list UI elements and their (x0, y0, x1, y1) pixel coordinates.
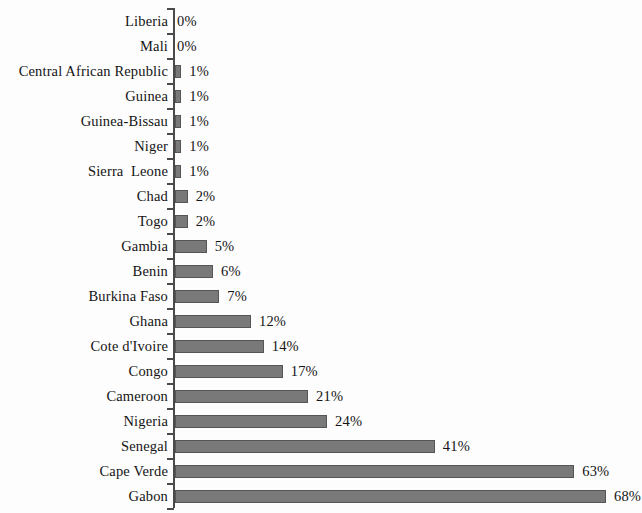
bar (175, 165, 181, 178)
bar-value-label: 0% (177, 14, 197, 29)
bar-container: 17% (175, 358, 318, 384)
category-label: Cote d'Ivoire (0, 339, 168, 354)
bar (175, 90, 181, 103)
bar (175, 440, 435, 453)
bar-value-label: 12% (259, 314, 286, 329)
bar (175, 340, 264, 353)
bar-value-label: 1% (189, 139, 209, 154)
category-label: Nigeria (0, 414, 168, 429)
bar-value-label: 0% (177, 39, 197, 54)
bar-value-label: 2% (196, 189, 216, 204)
bar (175, 415, 327, 428)
bar-container: 2% (175, 208, 215, 234)
bar-value-label: 14% (272, 339, 299, 354)
category-label: Congo (0, 364, 168, 379)
bar-container: 1% (175, 108, 209, 134)
category-label: Togo (0, 214, 168, 229)
bar (175, 390, 308, 403)
bar-container: 6% (175, 258, 241, 284)
category-label: Liberia (0, 14, 168, 29)
bar-row: Central African Republic1% (0, 58, 642, 84)
bar-value-label: 2% (196, 214, 216, 229)
bar-row: Ghana12% (0, 308, 642, 334)
bar-row: Sierra Leone1% (0, 158, 642, 184)
bar (175, 65, 181, 78)
category-label: Mali (0, 39, 168, 54)
bar-container: 63% (175, 458, 609, 484)
bar-value-label: 21% (316, 389, 343, 404)
bar-row: Gabon68% (0, 483, 642, 509)
bar (175, 490, 606, 503)
bar-row: Gambia5% (0, 233, 642, 259)
bar (175, 190, 188, 203)
bar-container: 7% (175, 283, 247, 309)
category-label: Guinea (0, 89, 168, 104)
bar (175, 465, 574, 478)
bar-container: 68% (175, 483, 641, 509)
category-label: Ghana (0, 314, 168, 329)
bar-container: 2% (175, 183, 215, 209)
bar-row: Benin6% (0, 258, 642, 284)
category-label: Cape Verde (0, 464, 168, 479)
bar-value-label: 41% (443, 439, 470, 454)
bar (175, 115, 181, 128)
category-label: Burkina Faso (0, 289, 168, 304)
plot-area: Liberia0%Mali0%Central African Republic1… (0, 0, 642, 513)
bar-value-label: 7% (227, 289, 247, 304)
category-label: Sierra Leone (0, 164, 168, 179)
category-label: Chad (0, 189, 168, 204)
bar-value-label: 1% (189, 89, 209, 104)
bar-row: Nigeria24% (0, 408, 642, 434)
category-label: Senegal (0, 439, 168, 454)
bar-value-label: 17% (291, 364, 318, 379)
bar-row: Guinea1% (0, 83, 642, 109)
bar-row: Burkina Faso7% (0, 283, 642, 309)
category-label: Gambia (0, 239, 168, 254)
horizontal-bar-chart: Liberia0%Mali0%Central African Republic1… (0, 0, 642, 513)
bar-container: 21% (175, 383, 343, 409)
bar-row: Cameroon21% (0, 383, 642, 409)
bar (175, 140, 181, 153)
bar-value-label: 6% (221, 264, 241, 279)
bar-container: 1% (175, 133, 209, 159)
category-label: Niger (0, 139, 168, 154)
bar-container: 5% (175, 233, 234, 259)
bar-container: 0% (175, 8, 197, 34)
bar-container: 14% (175, 333, 299, 359)
bar-value-label: 1% (189, 64, 209, 79)
category-label: Central African Republic (0, 64, 168, 79)
bar-container: 41% (175, 433, 470, 459)
bar-value-label: 63% (582, 464, 609, 479)
bar-value-label: 68% (614, 489, 641, 504)
category-label: Gabon (0, 489, 168, 504)
bar-container: 1% (175, 83, 209, 109)
bar-row: Mali0% (0, 33, 642, 59)
bar-row: Liberia0% (0, 8, 642, 34)
bar-row: Congo17% (0, 358, 642, 384)
bar-row: Cape Verde63% (0, 458, 642, 484)
bar (175, 240, 207, 253)
category-label: Cameroon (0, 389, 168, 404)
bar (175, 215, 188, 228)
bar-value-label: 1% (189, 164, 209, 179)
bar-row: Senegal41% (0, 433, 642, 459)
bar (175, 290, 219, 303)
bar (175, 315, 251, 328)
bar-row: Chad2% (0, 183, 642, 209)
bar-container: 24% (175, 408, 362, 434)
bar (175, 365, 283, 378)
bar-container: 12% (175, 308, 286, 334)
bar-value-label: 1% (189, 114, 209, 129)
bar-row: Guinea-Bissau1% (0, 108, 642, 134)
category-label: Guinea-Bissau (0, 114, 168, 129)
bar-container: 1% (175, 58, 209, 84)
category-label: Benin (0, 264, 168, 279)
bar-row: Cote d'Ivoire14% (0, 333, 642, 359)
bar-row: Niger1% (0, 133, 642, 159)
bar-value-label: 24% (335, 414, 362, 429)
bar-container: 0% (175, 33, 197, 59)
bar (175, 265, 213, 278)
bar-value-label: 5% (215, 239, 235, 254)
bar-row: Togo2% (0, 208, 642, 234)
bar-container: 1% (175, 158, 209, 184)
